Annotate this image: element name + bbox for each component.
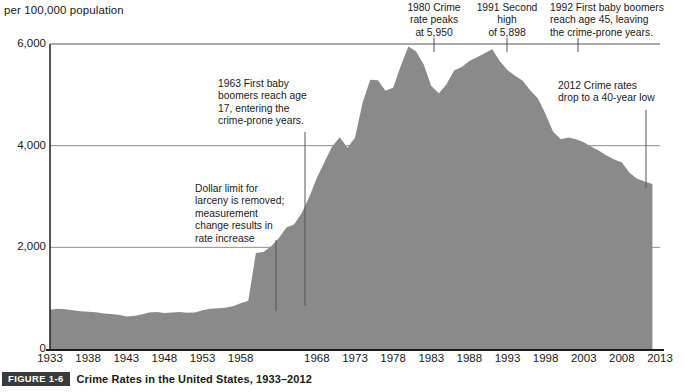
ann-1963: 1963 First baby boomers reach age 17, en…: [218, 78, 330, 128]
ann-1991-second-high: 1991 Second high of 5,898: [466, 2, 548, 39]
figure-number-badge: FIGURE 1-6: [2, 372, 70, 386]
y-axis-tick-label: 4,000: [0, 139, 46, 151]
ann-2012-low: 2012 Crime rates drop to a 40-year low: [558, 80, 684, 105]
y-axis-tick-label: 6,000: [0, 37, 46, 49]
chart-svg: [0, 0, 686, 365]
ann-1992-boomers-45: 1992 First baby boomers reach age 45, le…: [550, 2, 684, 39]
x-axis-tick-label: 2013: [638, 352, 682, 364]
chart-plot-area: 02,0004,0006,000 19331938194319481953195…: [0, 0, 686, 365]
x-axis-tick-label: 1958: [219, 352, 263, 364]
figure-caption-text: Crime Rates in the United States, 1933–2…: [77, 373, 312, 385]
figure-caption-bar: FIGURE 1-6 Crime Rates in the United Sta…: [0, 369, 686, 389]
figure-crime-rates: per 100,000 population 02,0004,0006,000 …: [0, 0, 686, 392]
ann-1980-peak: 1980 Crime rate peaks at 5,950: [390, 2, 478, 39]
y-axis-tick-label: 2,000: [0, 240, 46, 252]
ann-dollar-limit: Dollar limit for larceny is removed; mea…: [195, 183, 303, 245]
